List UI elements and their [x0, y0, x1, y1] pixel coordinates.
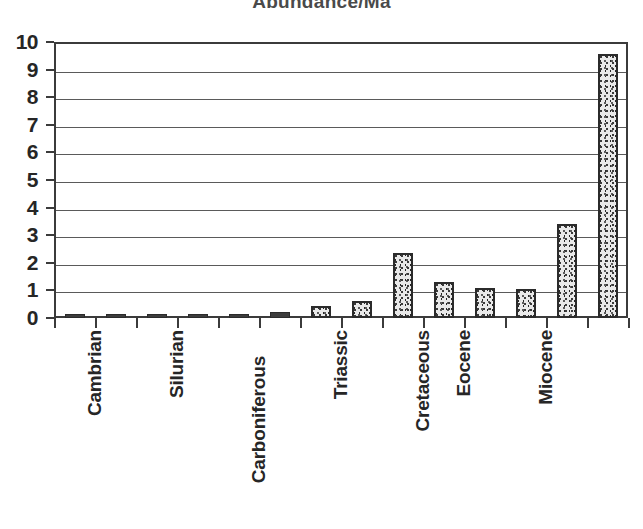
y-tick-mark [46, 96, 54, 98]
x-tick-mark [177, 318, 179, 328]
y-tick-label: 10 [16, 30, 38, 54]
y-tick-mark [46, 151, 54, 153]
y-axis: 012345678910 [0, 42, 46, 318]
chart-title: Abundance/Ma [0, 0, 643, 13]
y-tick-mark [46, 289, 54, 291]
x-tick-mark [546, 318, 548, 328]
x-tick-mark [259, 318, 261, 328]
x-tick-mark [505, 318, 507, 328]
x-axis: CambrianSilurianCarboniferousTriassicCre… [54, 330, 628, 490]
y-tick-label: 6 [27, 140, 38, 164]
x-tick-label: Cambrian [84, 330, 106, 416]
y-tick-label: 1 [27, 278, 38, 302]
y-tick-mark [46, 262, 54, 264]
gridline [56, 265, 626, 266]
gridline [56, 127, 626, 128]
gridline [56, 237, 626, 238]
y-tick-mark [46, 41, 54, 43]
y-tick-label: 8 [27, 85, 38, 109]
gridline [56, 292, 626, 293]
x-tick-mark [382, 318, 384, 328]
y-tick-label: 2 [27, 251, 38, 275]
y-tick-mark [46, 69, 54, 71]
y-tick-mark [46, 124, 54, 126]
x-tick-mark [54, 318, 56, 328]
y-tick-mark [46, 234, 54, 236]
x-tick-mark [341, 318, 343, 328]
x-tick-mark [300, 318, 302, 328]
y-tick-label: 7 [27, 113, 38, 137]
gridline [56, 72, 626, 73]
x-tick-label: Triassic [330, 330, 352, 399]
y-tick-label: 5 [27, 168, 38, 192]
x-tick-label: Silurian [166, 330, 188, 398]
gridline [56, 210, 626, 211]
x-tick-mark [136, 318, 138, 328]
x-tick-mark [95, 318, 97, 328]
y-tick-label: 0 [27, 306, 38, 330]
y-tick-mark [46, 317, 54, 319]
x-tick-mark [464, 318, 466, 328]
x-tick-mark [628, 318, 630, 328]
y-tick-label: 4 [27, 196, 38, 220]
gridline [56, 154, 626, 155]
x-tick-label: Cretaceous [412, 330, 434, 432]
x-tick-mark [423, 318, 425, 328]
x-tick-mark [587, 318, 589, 328]
x-tick-label: Carboniferous [248, 356, 270, 483]
x-tick-label: Miocene [535, 330, 557, 405]
x-tick-mark [218, 318, 220, 328]
gridline [56, 182, 626, 183]
x-tick-label: Eocene [453, 330, 475, 396]
plot-area [54, 42, 628, 318]
x-axis-ticks [54, 318, 628, 329]
y-tick-mark [46, 207, 54, 209]
y-tick-mark [46, 179, 54, 181]
y-tick-label: 3 [27, 223, 38, 247]
gridline [56, 99, 626, 100]
y-tick-label: 9 [27, 58, 38, 82]
